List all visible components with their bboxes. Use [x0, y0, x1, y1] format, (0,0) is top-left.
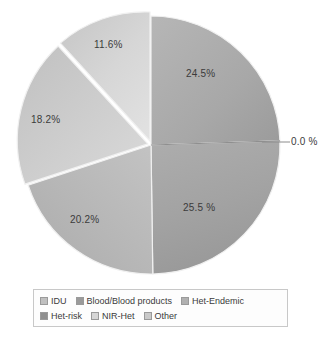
legend-swatch-icon	[91, 312, 99, 320]
legend-label: IDU	[51, 296, 67, 306]
legend-item-nir-het[interactable]: NIR-Het	[91, 311, 135, 321]
legend-item-het-endemic[interactable]: Het-Endemic	[181, 296, 244, 306]
slice-label-other: 11.6%	[94, 39, 123, 50]
legend-label: Blood/Blood products	[87, 296, 173, 306]
legend-item-het-risk[interactable]: Het-risk	[40, 311, 82, 321]
slice-label-nir-het: 18.2%	[31, 114, 60, 125]
pie-chart: 24.5% 0.0 % 25.5 % 20.2% 18.2% 11.6% IDU…	[0, 0, 324, 342]
legend-label: NIR-Het	[102, 311, 135, 321]
legend-swatch-icon	[40, 297, 48, 305]
slice-label-het-risk: 20.2%	[70, 214, 99, 225]
slice-label-het-endemic: 25.5 %	[183, 202, 215, 213]
legend-item-blood-products[interactable]: Blood/Blood products	[76, 296, 173, 306]
pie-slice-het-endemic[interactable]	[151, 141, 280, 274]
slice-label-idu: 24.5%	[186, 68, 215, 79]
legend-label: Het-Endemic	[192, 296, 244, 306]
pie-slice-idu[interactable]	[151, 16, 280, 145]
chart-legend: IDU Blood/Blood products Het-Endemic Het…	[33, 289, 288, 327]
legend-swatch-icon	[76, 297, 84, 305]
slice-label-blood-products: 0.0 %	[291, 136, 318, 147]
legend-swatch-icon	[40, 312, 48, 320]
legend-label: Other	[155, 311, 178, 321]
pie-svg	[0, 0, 324, 285]
legend-item-idu[interactable]: IDU	[40, 296, 67, 306]
legend-label: Het-risk	[51, 311, 82, 321]
legend-row: Het-risk NIR-Het Other	[40, 309, 281, 322]
legend-row: IDU Blood/Blood products Het-Endemic	[40, 294, 281, 307]
legend-item-other[interactable]: Other	[144, 311, 178, 321]
pie-plot-area: 24.5% 0.0 % 25.5 % 20.2% 18.2% 11.6%	[0, 0, 324, 285]
legend-swatch-icon	[144, 312, 152, 320]
legend-swatch-icon	[181, 297, 189, 305]
